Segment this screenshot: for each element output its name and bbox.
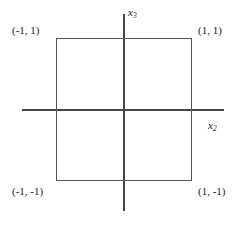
vertical-axis-label: x3: [128, 7, 137, 18]
corner-label-top-right: (1, 1): [198, 25, 222, 36]
unit-square-outline: [56, 38, 192, 181]
corner-label-bottom-left: (-1, -1): [12, 186, 43, 197]
coordinate-square-diagram: x3 x2 (-1, 1) (1, 1) (-1, -1) (1, -1): [0, 0, 235, 226]
horizontal-axis-label-subscript: 2: [213, 124, 217, 133]
corner-label-bottom-right: (1, -1): [198, 186, 226, 197]
horizontal-axis-label: x2: [208, 120, 217, 131]
vertical-axis-label-subscript: 3: [133, 11, 137, 20]
corner-label-top-left: (-1, 1): [12, 25, 40, 36]
